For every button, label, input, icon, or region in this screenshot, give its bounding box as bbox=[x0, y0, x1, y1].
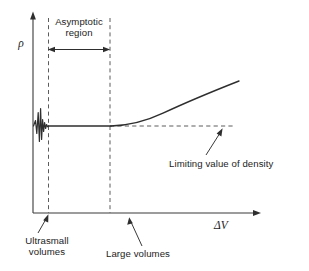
x-axis-label-delta-v: ΔV bbox=[214, 220, 244, 231]
asymptotic-region-label: Asymptotic region bbox=[44, 16, 114, 39]
asymptotic-region-label-line1: Asymptotic bbox=[55, 16, 103, 27]
ultrasmall-volumes-label: Ultrasmall volumes bbox=[14, 235, 80, 258]
limiting-value-leader-arrowhead bbox=[217, 128, 223, 136]
limiting-value-label: Limiting value of density bbox=[169, 158, 301, 169]
x-axis-arrowhead bbox=[253, 210, 261, 216]
density-volume-chart bbox=[0, 0, 309, 271]
asymptotic-region-boundaries bbox=[49, 18, 111, 213]
density-curve-group bbox=[34, 81, 240, 142]
y-axis-label-rho: ρ bbox=[13, 38, 29, 49]
limiting-value-leader-line bbox=[206, 133, 220, 155]
limiting-value-callout-leader bbox=[206, 128, 223, 155]
density-fluctuation-segment bbox=[34, 109, 49, 142]
ultrasmall-leader-line bbox=[38, 219, 46, 233]
ultrasmall-volumes-label-line1: Ultrasmall bbox=[25, 235, 68, 246]
ultrasmall-leader-arrowhead bbox=[43, 214, 48, 222]
ultrasmall-volumes-callout-leader bbox=[38, 214, 48, 233]
large-volumes-callout-leader bbox=[127, 217, 142, 246]
large-volumes-leader-line bbox=[131, 222, 142, 246]
large-volumes-label: Large volumes bbox=[106, 248, 186, 259]
asymptotic-region-label-line2: region bbox=[65, 27, 92, 38]
ultrasmall-volumes-label-line2: volumes bbox=[29, 246, 65, 257]
y-axis-arrowhead bbox=[30, 12, 36, 20]
asymptotic-region-span-arrow bbox=[48, 47, 110, 53]
span-arrow-right-head bbox=[103, 47, 110, 53]
density-rise-segment bbox=[111, 81, 239, 126]
figure-container: ρ ΔV Asymptotic region Limiting value of… bbox=[0, 0, 309, 271]
axes-group bbox=[30, 12, 261, 216]
